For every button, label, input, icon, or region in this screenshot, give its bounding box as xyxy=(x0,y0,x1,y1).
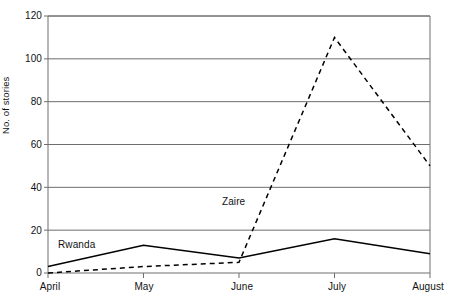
chart-container: No. of stories 120 100 80 60 40 20 0 Apr… xyxy=(0,0,452,306)
y-tick-marks xyxy=(44,16,48,273)
data-series-group xyxy=(48,37,430,273)
series-line-zaire xyxy=(48,37,430,273)
gridlines xyxy=(48,16,430,230)
x-tick-marks xyxy=(48,273,430,278)
plot-area xyxy=(0,0,452,306)
